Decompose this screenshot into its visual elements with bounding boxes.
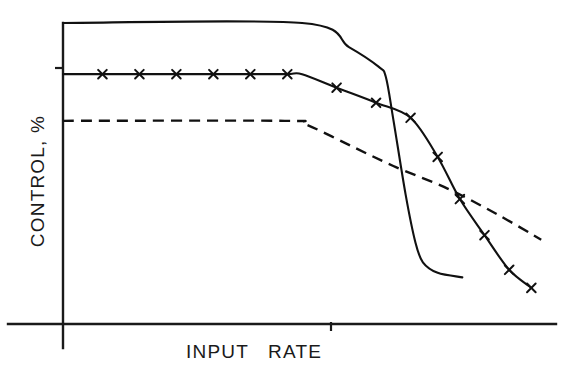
data-point-marker-x xyxy=(433,153,442,162)
series-upper-solid-curve xyxy=(63,21,462,277)
data-point-marker-x xyxy=(505,266,514,275)
data-point-marker-x xyxy=(527,284,536,293)
series-middle-cross-curve xyxy=(63,73,531,288)
chart-figure: CONTROL, % INPUT RATE xyxy=(0,0,565,381)
series-lower-dashed-curve xyxy=(63,121,541,240)
x-axis-label: INPUT RATE xyxy=(186,341,322,363)
data-point-marker-x xyxy=(456,195,465,204)
chart-plot-area xyxy=(0,0,565,381)
data-point-marker-x xyxy=(332,83,341,92)
data-point-marker-x xyxy=(372,98,381,107)
y-axis-label: CONTROL, % xyxy=(27,71,49,291)
series-middle-cross-markers xyxy=(98,70,536,292)
data-point-marker-x xyxy=(480,231,489,240)
data-point-marker-x xyxy=(406,114,415,123)
series-group xyxy=(63,21,541,292)
axes-group xyxy=(8,23,556,348)
